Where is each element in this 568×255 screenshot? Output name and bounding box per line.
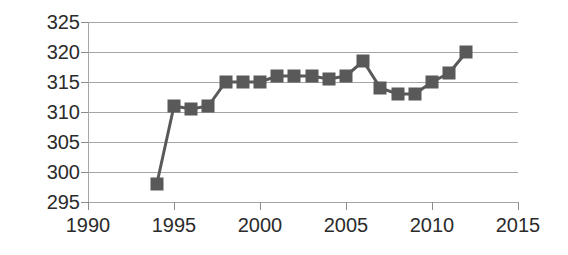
data-point-2011 xyxy=(443,67,456,80)
data-point-2007 xyxy=(374,82,387,95)
data-point-1998 xyxy=(219,76,232,89)
data-point-1994 xyxy=(150,178,163,191)
data-point-1997 xyxy=(202,100,215,113)
data-point-2002 xyxy=(288,70,301,83)
data-point-2010 xyxy=(426,76,439,89)
data-point-1995 xyxy=(168,100,181,113)
chart-container: 325320315310305300295 199019952000200520… xyxy=(0,0,568,255)
data-point-2003 xyxy=(305,70,318,83)
data-point-2001 xyxy=(271,70,284,83)
series-line-path xyxy=(0,0,568,255)
data-point-2009 xyxy=(408,88,421,101)
data-point-1999 xyxy=(236,76,249,89)
data-point-2012 xyxy=(460,46,473,59)
data-point-2004 xyxy=(322,73,335,86)
data-point-1996 xyxy=(185,103,198,116)
data-point-2000 xyxy=(254,76,267,89)
data-point-2008 xyxy=(391,88,404,101)
data-point-2006 xyxy=(357,55,370,68)
data-point-2005 xyxy=(340,70,353,83)
